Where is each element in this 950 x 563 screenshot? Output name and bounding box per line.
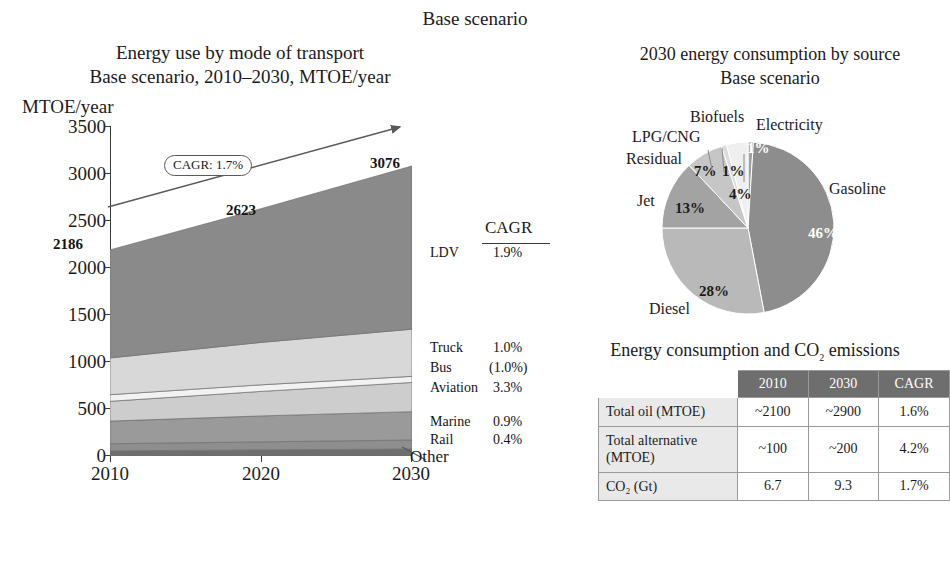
table-col-cagr: CAGR bbox=[879, 371, 950, 398]
table-header-row: 2010 2030 CAGR bbox=[599, 371, 950, 398]
cagr-column-header: CAGR bbox=[485, 218, 532, 238]
table-col-2030: 2030 bbox=[808, 371, 879, 398]
pie-label-lpgcng: LPG/CNG bbox=[632, 128, 700, 146]
area-chart-title-line2: Base scenario, 2010–2030, MTOE/year bbox=[30, 66, 450, 88]
table-cell-co2-cagr: 1.7% bbox=[879, 472, 950, 501]
y-tick-1000: 1000 bbox=[36, 351, 106, 373]
pie-pct-jet: 13% bbox=[675, 200, 705, 217]
series-label-aviation: Aviation bbox=[430, 380, 478, 396]
y-tick-3000: 3000 bbox=[36, 163, 106, 185]
table-cell-co2-2030: 9.3 bbox=[808, 472, 879, 501]
series-label-other: Other bbox=[410, 447, 449, 467]
table-title-pre: Energy consumption and CO bbox=[610, 340, 819, 360]
series-label-bus: Bus bbox=[430, 360, 452, 376]
x-tick-2020: 2020 bbox=[216, 463, 306, 485]
y-tick-1500: 1500 bbox=[36, 304, 106, 326]
y-tick-2500: 2500 bbox=[36, 210, 106, 232]
y-axis-caption: MTOE/year bbox=[22, 96, 113, 118]
series-cagr-rail: 0.4% bbox=[493, 432, 522, 448]
table-title-post: emissions bbox=[824, 340, 900, 360]
table-cell-total-oil-2010: ~2100 bbox=[738, 398, 809, 427]
table-row: CO₂ (Gt) 6.7 9.3 1.7% bbox=[599, 472, 950, 501]
series-cagr-marine: 0.9% bbox=[493, 414, 522, 430]
series-cagr-aviation: 3.3% bbox=[493, 380, 522, 396]
pie-label-electricity: Electricity bbox=[756, 116, 823, 134]
y-tick-2000: 2000 bbox=[36, 257, 106, 279]
table-row: Total oil (MTOE) ~2100 ~2900 1.6% bbox=[599, 398, 950, 427]
table-row-label-co2: CO₂ (Gt) bbox=[599, 472, 738, 501]
pie-label-jet: Jet bbox=[637, 192, 655, 210]
table-col-2010: 2010 bbox=[738, 371, 809, 398]
table-cell-co2-2010: 6.7 bbox=[738, 472, 809, 501]
pie-label-biofuels: Biofuels bbox=[690, 108, 744, 126]
pie-label-residual: Residual bbox=[626, 150, 682, 168]
summary-table: 2010 2030 CAGR Total oil (MTOE) ~2100 ~2… bbox=[598, 370, 950, 501]
x-tickmark-2010 bbox=[110, 456, 111, 462]
table-cell-total-alternative-2030: ~200 bbox=[808, 426, 879, 472]
x-tickmark-2020 bbox=[261, 456, 262, 462]
table-row-label-total-oil: Total oil (MTOE) bbox=[599, 398, 738, 427]
total-label-2020: 2623 bbox=[226, 202, 256, 219]
area-chart-title-line1: Energy use by mode of transport bbox=[30, 42, 450, 64]
series-label-marine: Marine bbox=[430, 414, 470, 430]
y-tick-500: 500 bbox=[36, 398, 106, 420]
series-label-ldv: LDV bbox=[430, 245, 459, 261]
table-cell-total-oil-2030: ~2900 bbox=[808, 398, 879, 427]
pie-pct-diesel: 28% bbox=[699, 283, 729, 300]
cagr-callout: CAGR: 1.7% bbox=[164, 155, 252, 176]
pie-label-gasoline: Gasoline bbox=[829, 180, 886, 198]
series-cagr-truck: 1.0% bbox=[493, 340, 522, 356]
series-cagr-ldv: 1.9% bbox=[493, 245, 522, 261]
total-label-2030: 3076 bbox=[370, 155, 400, 172]
table-cell-total-alternative-2010: ~100 bbox=[738, 426, 809, 472]
x-tick-2010: 2010 bbox=[65, 463, 155, 485]
series-cagr-bus: (1.0%) bbox=[489, 360, 528, 376]
table-col-blank bbox=[599, 371, 738, 398]
pie-chart-title-line1: 2030 energy consumption by source bbox=[595, 44, 945, 65]
y-tick-3500: 3500 bbox=[36, 116, 106, 138]
pie-chart-title-line2: Base scenario bbox=[595, 68, 945, 89]
pie-label-diesel: Diesel bbox=[649, 300, 690, 318]
total-label-2010: 2186 bbox=[53, 236, 83, 253]
table-cell-total-alternative-cagr: 4.2% bbox=[879, 426, 950, 472]
series-label-truck: Truck bbox=[430, 340, 463, 356]
table-row-label-total-alternative: Total alternative (MTOE) bbox=[599, 426, 738, 472]
table-cell-total-oil-cagr: 1.6% bbox=[879, 398, 950, 427]
table-title: Energy consumption and CO2 emissions bbox=[560, 340, 950, 363]
pie-pct-gasoline: 46% bbox=[808, 225, 838, 242]
page-title: Base scenario bbox=[0, 8, 950, 30]
table-row: Total alternative (MTOE) ~100 ~200 4.2% bbox=[599, 426, 950, 472]
pie-leader-lines bbox=[700, 148, 770, 193]
